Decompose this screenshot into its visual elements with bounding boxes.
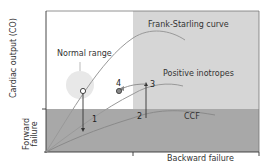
marker-1: 1: [92, 116, 97, 124]
y-axis-label: Cardiac output (CO): [10, 18, 18, 98]
marker-2: 2: [137, 113, 142, 121]
forward-failure-line2: failure: [30, 121, 39, 146]
forward-failure-band: [46, 109, 259, 152]
marker-3: 3: [150, 81, 155, 89]
backward-failure-label: Backward failure: [167, 155, 234, 163]
marker-4: 4: [116, 80, 121, 88]
heart-failure-diagram: Frank-Starling curve Normal range Positi…: [0, 0, 270, 166]
positive-inotropes-label: Positive inotropes: [163, 70, 234, 78]
normal-point: [80, 88, 85, 93]
forward-failure-label: Forward failure: [23, 118, 40, 150]
ccf-label: CCF: [184, 113, 200, 121]
frank-starling-label: Frank-Starling curve: [148, 21, 229, 29]
normal-range-label: Normal range: [57, 50, 112, 58]
diagram-canvas: [0, 0, 270, 166]
point-4: [116, 88, 121, 93]
